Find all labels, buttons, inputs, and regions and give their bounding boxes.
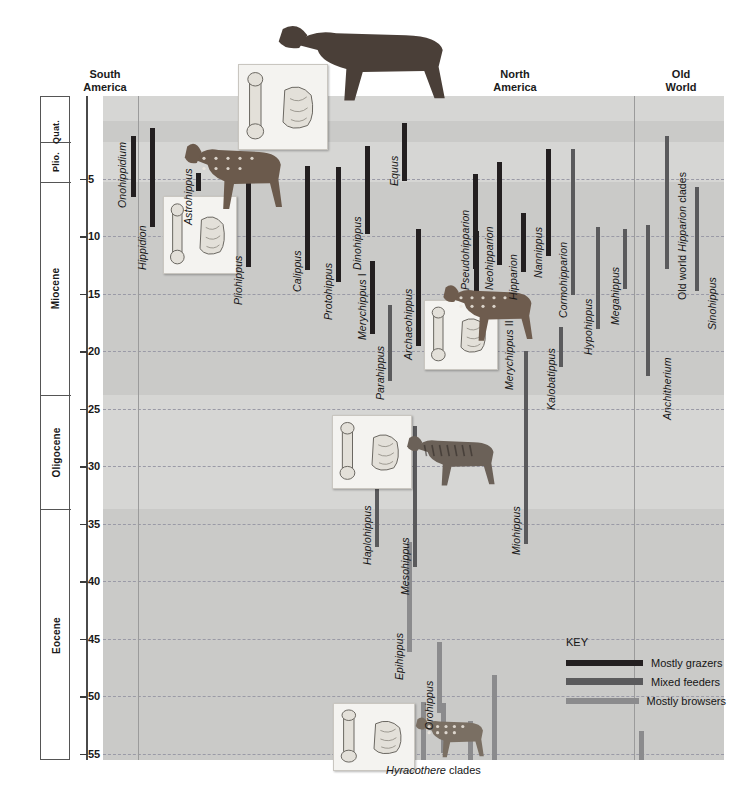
range-bar-old-world-hipparion-clades [665,136,669,269]
range-bar-hypohippus [596,227,600,329]
range-bar-hyracothere-clade-d [492,675,497,760]
taxon-label-cormohipparion: Cormohipparion [557,242,569,318]
taxon-label-calippus: Calippus [291,250,303,292]
region-header-south-america: South America [55,68,155,94]
range-bar-miohippus [524,351,528,544]
range-bar-old-world-hyracothere [639,731,644,761]
key-row-mixed-feeders: Mixed feeders [566,674,726,689]
gridline-25 [103,409,724,410]
key-row-mostly-browsers: Mostly browsers [566,693,726,708]
epoch-plio: Plio. [41,143,71,183]
key-rows: Mostly grazersMixed feedersMostly browse… [566,655,726,708]
illustration-mesohippus-horse [392,424,500,494]
hyracothere-clades-label: Hyracothere clades [386,764,481,776]
taxon-label-hypohippus: Hypohippus [582,299,594,355]
taxon-label-hipparion: Hipparion [507,254,519,300]
epoch-label: Oligocene [51,427,62,477]
tick-40 [80,581,87,583]
range-bar-calippus [305,166,310,271]
tick-5 [80,179,87,181]
range-bar-neohipparion [497,162,502,264]
tick-label-35: 35 [88,518,100,530]
epoch-label: Eocene [51,617,62,654]
tick-label-15: 15 [88,288,100,300]
range-bar-anchitherium [646,225,650,377]
key-label: Mostly grazers [651,657,723,669]
taxon-label-archaeohippus: Archaeohippus [402,289,414,360]
taxon-label-dinohippus: Dinohippus [351,216,363,270]
key-swatch [566,698,639,704]
tick-label-45: 45 [88,633,100,645]
region-header-north-america: North America [465,68,565,94]
range-bar-archaeohippus [416,229,421,346]
range-bar-parahippus [388,305,392,381]
range-bar-hippidion [150,128,155,227]
range-bar-merychippus-i [370,261,375,333]
range-bar-haplohippus [375,489,379,547]
key-swatch [566,660,643,666]
taxon-label-merychippus-i: Merychippus I [356,273,368,340]
tick-25 [80,409,87,411]
tick-50 [80,696,87,698]
key-swatch [566,678,643,685]
key-label: Mostly browsers [647,695,726,707]
taxon-label-orohippus: Orohippus [423,681,435,730]
taxon-label-anchitherium: Anchitherium [661,358,673,420]
range-bar-dinohippus [365,146,370,233]
taxon-label-equus: Equus [388,156,400,186]
tick-label-55: 55 [88,748,100,760]
tick-label-10: 10 [88,230,100,242]
range-bar-megahippus [623,229,627,289]
range-bar-sinohippus [695,187,699,292]
taxon-label-hippidion: Hippidion [136,225,148,270]
taxon-label-old-world-hipparion-clades: Old world Hipparion clades [676,172,688,300]
taxon-label-megahippus: Megahippus [609,267,621,325]
taxon-label-pseudohipparion: Pseudohipparion [459,210,471,290]
illustration-hyracothere-horse [404,708,488,764]
tick-20 [80,351,87,353]
tick-label-25: 25 [88,403,100,415]
tick-label-20: 20 [88,345,100,357]
epoch-oligocene: Oligocene [41,396,71,510]
epoch-label: Plio. [51,152,61,172]
taxon-label-onohippidium: Onohippidium [116,142,128,208]
tick-label-30: 30 [88,460,100,472]
range-bar-onohippidium [131,136,136,197]
taxon-label-merychippus-ii: Merychippus II [503,320,515,390]
key-legend: KEY Mostly grazersMixed feedersMostly br… [566,636,726,712]
taxon-label-epihippus: Epihippus [393,633,405,680]
taxon-label-nannippus: Nannippus [532,227,544,278]
range-bar-hipparion [521,213,526,272]
taxon-label-protohippus: Protohippus [322,263,334,320]
taxon-label-parahippus: Parahippus [374,346,386,400]
tick-label-5: 5 [88,173,94,185]
illustration-equus-horse [250,8,455,113]
taxon-label-sinohippus: Sinohippus [706,277,718,330]
taxon-label-neohipparion: Neohipparion [483,226,495,290]
taxon-label-pliohippus: Pliohippus [232,256,244,305]
tick-label-50: 50 [88,690,100,702]
epoch-miocene: Miocene [41,183,71,396]
key-title: KEY [566,636,726,648]
range-bar-kalobatippus [559,327,563,367]
range-bar-pseudohipparion [473,174,478,269]
range-bar-nannippus [546,149,551,256]
tick-35 [80,524,87,526]
range-bar-cormohipparion [571,149,575,295]
taxon-label-kalobatippus: Kalobatippus [545,348,557,410]
tick-30 [80,466,87,468]
epoch-column: Quat.Plio.MioceneOligoceneEocene [40,96,70,760]
hyracothere-roman: clades [446,764,481,776]
taxon-label-miohippus: Miohippus [510,506,522,555]
range-bar-equus [402,123,407,181]
region-divider-0 [138,96,139,760]
tick-45 [80,639,87,641]
tick-15 [80,294,87,296]
inset-hyracothere-limb-tooth [333,703,415,771]
taxon-label-astrohippus: Astrohippus [182,168,194,225]
tick-55 [80,754,87,756]
key-row-mostly-grazers: Mostly grazers [566,655,726,670]
tick-10 [80,236,87,238]
range-bar-protohippus [336,167,341,282]
